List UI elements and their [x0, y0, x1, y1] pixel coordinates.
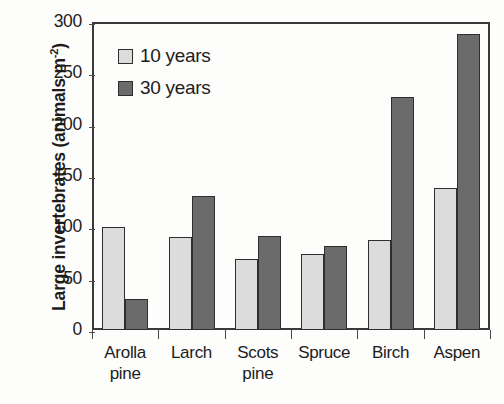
y-axis-tick-label: 250 [36, 64, 82, 82]
legend-item: 30 years [118, 74, 288, 102]
bar [457, 34, 480, 330]
legend-label: 10 years [140, 45, 210, 67]
bar [301, 254, 324, 330]
x-axis-category-label-line1: Arolla [104, 343, 146, 362]
x-axis-category-label-line1: Scots [237, 343, 278, 362]
legend-item: 10 years [118, 42, 288, 70]
x-axis-category-label-line1: Birch [372, 343, 409, 362]
x-axis-tick-mark [225, 330, 226, 339]
bar [391, 97, 414, 330]
y-axis-tick-label: 200 [36, 116, 82, 134]
bar [192, 196, 215, 330]
bar [169, 237, 192, 330]
x-axis-tick-labels: ArollapineLarchScotspineSpruceBirchAspen [92, 342, 490, 400]
y-axis-tick-label: 50 [36, 270, 82, 288]
bar [434, 188, 457, 330]
y-axis-tick-label: 300 [36, 13, 82, 31]
y-axis-tick-label: 0 [36, 321, 82, 339]
x-axis-category-label: Aspen [416, 342, 498, 363]
y-axis-tick-label: 100 [36, 218, 82, 236]
legend-swatch-10-years [118, 49, 133, 64]
x-axis-category-label-line1: Larch [171, 343, 212, 362]
y-axis-tick-labels: 300250200150100500 [30, 0, 82, 404]
bar [102, 227, 125, 330]
x-axis-tick-mark [158, 330, 159, 339]
legend: 10 years30 years [118, 42, 288, 106]
legend-label: 30 years [140, 77, 210, 99]
legend-swatch-30-years [118, 81, 133, 96]
x-axis-tick-mark [490, 330, 491, 339]
x-axis-category-label-line2: pine [217, 363, 299, 384]
bar [125, 299, 148, 330]
bar [235, 259, 258, 330]
x-axis-tick-mark [291, 330, 292, 339]
x-axis-category-label-line1: Aspen [433, 343, 480, 362]
x-axis-tick-mark [357, 330, 358, 339]
x-axis-tick-mark [92, 330, 93, 339]
bar [368, 240, 391, 330]
x-axis-category-label-line1: Spruce [298, 343, 350, 362]
y-axis-tick-label: 150 [36, 167, 82, 185]
bar [258, 236, 281, 330]
bar-chart-figure: Large invertebrates (animals m-2) 300250… [0, 0, 504, 404]
x-axis-tick-mark [424, 330, 425, 339]
x-axis-category-label-line2: pine [84, 363, 166, 384]
bar [324, 246, 347, 330]
